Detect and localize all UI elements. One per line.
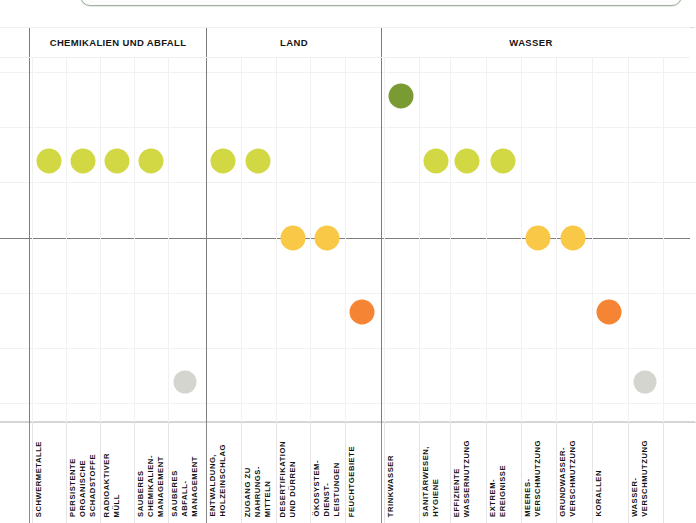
category-label-grundwasserverschmutzung: GRUNDWASSER- VERSCHMUTZUNG	[558, 440, 588, 517]
data-point-desertifikation[interactable]	[281, 226, 306, 251]
category-label-entwaldung: ENTWALDUNG, HOLZEINSCHLAG	[208, 444, 238, 517]
group-header-underline	[0, 57, 690, 58]
category-label-sanitaerwesen-hygiene: SANITÄRWESEN, HYGIENE	[421, 446, 451, 517]
gridline-v-radioaktiver-muell	[100, 57, 101, 422]
gridline-v-sauberes-chemikalien-management	[134, 57, 135, 422]
category-label-band: SCHWERMETALLEPERSISTENTE ORGANISCHE SCHA…	[0, 422, 696, 523]
top-panel-edge	[80, 0, 682, 6]
label-divider-desertifikation	[276, 422, 277, 523]
category-label-effiziente-wassernutzung: EFFIZIENTE WASSERNUTZUNG	[452, 440, 482, 517]
gridline-v-persistente-organische	[66, 57, 67, 422]
data-point-entwaldung[interactable]	[211, 149, 236, 174]
label-divider-trinkwasser	[384, 422, 385, 523]
gridline-v-effiziente-wassernutzung	[450, 57, 451, 422]
category-label-schwermetalle: SCHWERMETALLE	[34, 441, 64, 517]
category-label-korallen: KORALLEN	[594, 470, 624, 517]
gridline-v-sanitaerwesen-hygiene	[419, 57, 420, 422]
gridline-v-schwermetalle	[32, 57, 33, 422]
gridline-v-desertifikation	[276, 57, 277, 422]
data-point-zugang-nahrungsmittel[interactable]	[246, 149, 271, 174]
group-separator-land	[206, 27, 207, 422]
label-divider-end	[663, 422, 664, 523]
category-label-sauberes-abfall-management: SAUBERES ABFALL- MANAGEMENT	[170, 456, 200, 517]
category-label-oekosystem-dienstleistungen: ÖKOSYSTEM- DIENST- LEISTUNGEN	[312, 460, 342, 517]
label-divider-zugang-nahrungsmittel	[241, 422, 242, 523]
category-label-feuchtgebiete: FEUCHTGEBIETE	[347, 446, 377, 517]
category-label-extremereignisse: EXTREM- EREIGNISSE	[488, 465, 518, 517]
gridline-v-end	[663, 57, 664, 422]
data-point-extremereignisse[interactable]	[491, 149, 516, 174]
category-label-zugang-nahrungsmittel: ZUGANG ZU NAHRUNGS- MITTELN	[243, 466, 273, 517]
gridline-v-feuchtgebiete	[345, 57, 346, 422]
data-point-meeresverschmutzung[interactable]	[526, 226, 551, 251]
data-point-sanitaerwesen-hygiene[interactable]	[424, 149, 449, 174]
data-point-wasserverschmutzung[interactable]	[634, 371, 657, 394]
plot-top-rule	[0, 27, 690, 28]
data-point-sauberes-chemikalien-management[interactable]	[139, 149, 164, 174]
gridline-v-meeresverschmutzung	[521, 57, 522, 422]
data-point-trinkwasser[interactable]	[389, 84, 414, 109]
label-divider-sauberes-chemikalien-management	[134, 422, 135, 523]
category-label-sauberes-chemikalien-management: SAUBERES CHEMIKALIEN- MANAGEMENT	[136, 455, 166, 517]
data-point-radioaktiver-muell[interactable]	[105, 149, 130, 174]
label-divider-feuchtgebiete	[345, 422, 346, 523]
label-divider-radioaktiver-muell	[100, 422, 101, 523]
data-point-feuchtgebiete[interactable]	[350, 300, 375, 325]
gridline-v-oekosystem-dienstleistungen	[310, 57, 311, 422]
data-point-persistente-organische[interactable]	[71, 149, 96, 174]
gridline-v-trinkwasser	[384, 57, 385, 422]
label-divider-schwermetalle	[32, 422, 33, 523]
category-label-radioaktiver-muell: RADIOAKTIVER MÜLL	[102, 453, 132, 517]
group-separator-left	[29, 27, 30, 422]
category-label-trinkwasser: TRINKWASSER	[386, 455, 416, 517]
gridline-v-grundwasserverschmutzung	[556, 57, 557, 422]
label-divider-extremereignisse	[486, 422, 487, 523]
label-divider-effiziente-wassernutzung	[450, 422, 451, 523]
label-group-divider-0	[29, 422, 30, 523]
data-point-grundwasserverschmutzung[interactable]	[561, 226, 586, 251]
data-point-schwermetalle[interactable]	[37, 149, 62, 174]
category-label-wasserverschmutzung: WASSER- VERSCHMUTZUNG	[630, 440, 660, 517]
gridline-v-korallen	[592, 57, 593, 422]
label-group-divider-2	[381, 422, 382, 523]
data-point-effiziente-wassernutzung[interactable]	[455, 149, 480, 174]
gridline-v-zugang-nahrungsmittel	[241, 57, 242, 422]
group-separator-wasser	[381, 27, 382, 422]
label-divider-grundwasserverschmutzung	[556, 422, 557, 523]
label-divider-sauberes-abfall-management	[168, 422, 169, 523]
category-label-desertifikation: DESERTIFIKATION UND DÜRREN	[278, 441, 308, 517]
gridline-v-wasserverschmutzung	[628, 57, 629, 422]
label-divider-oekosystem-dienstleistungen	[310, 422, 311, 523]
label-divider-sanitaerwesen-hygiene	[419, 422, 420, 523]
data-point-oekosystem-dienstleistungen[interactable]	[315, 226, 340, 251]
label-divider-persistente-organische	[66, 422, 67, 523]
label-divider-wasserverschmutzung	[628, 422, 629, 523]
data-point-korallen[interactable]	[597, 300, 622, 325]
scatter-chart: CHEMIKALIEN UND ABFALLLANDWASSER SCHWERM…	[0, 27, 696, 523]
gridline-v-sauberes-abfall-management	[168, 57, 169, 422]
data-point-sauberes-abfall-management[interactable]	[174, 371, 197, 394]
gridline-v-extremereignisse	[486, 57, 487, 422]
category-label-meeresverschmutzung: MEERES- VERSCHMUTZUNG	[523, 440, 553, 517]
label-divider-korallen	[592, 422, 593, 523]
label-group-divider-1	[206, 422, 207, 523]
label-divider-meeresverschmutzung	[521, 422, 522, 523]
category-label-persistente-organische: PERSISTENTE ORGANISCHE SCHADSTOFFE	[68, 454, 98, 517]
